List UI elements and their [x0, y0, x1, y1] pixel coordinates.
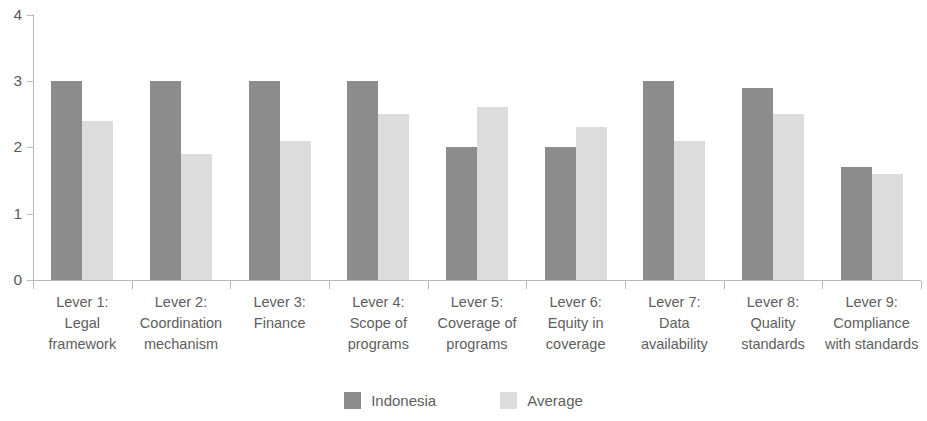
x-axis-label-line: coverage	[519, 334, 632, 355]
legend-item[interactable]: Average	[500, 392, 583, 409]
bar-average	[280, 141, 311, 280]
x-axis-category-label: Lever 2:Coordinationmechanism	[125, 292, 238, 355]
x-axis-category-separator	[428, 281, 429, 289]
bar-indonesia	[249, 81, 280, 280]
x-axis-label-line: Lever 9:	[815, 292, 927, 313]
x-axis-line	[33, 280, 921, 281]
x-axis-label-line: availability	[618, 334, 731, 355]
x-axis-label-line: Quality	[717, 313, 830, 334]
x-axis-category-separator	[921, 281, 922, 289]
y-axis-tick-label: 2	[0, 140, 22, 156]
x-axis-category-label: Lever 1:Legalframework	[26, 292, 139, 355]
x-axis-category-label: Lever 7:Dataavailability	[618, 292, 731, 355]
x-axis-category-separator	[822, 281, 823, 289]
bar-indonesia	[841, 167, 872, 280]
x-axis-label-line: Lever 4:	[322, 292, 435, 313]
x-axis-label-line: Coverage of	[421, 313, 534, 334]
bar-indonesia	[347, 81, 378, 280]
x-axis-category-separator	[329, 281, 330, 289]
x-axis-label-line: with standards	[815, 334, 927, 355]
y-axis-tick-label: 1	[0, 206, 22, 222]
bar-average	[872, 174, 903, 280]
x-axis-label-line: Finance	[223, 313, 336, 334]
x-axis-label-line: programs	[421, 334, 534, 355]
legend-swatch-icon	[500, 392, 517, 409]
x-axis-category-separator	[33, 281, 34, 289]
x-axis-label-line: Coordination	[125, 313, 238, 334]
y-axis-tick-label: 4	[0, 7, 22, 23]
x-axis-label-line: Lever 8:	[717, 292, 830, 313]
bar-indonesia	[51, 81, 82, 280]
bar-average	[181, 154, 212, 280]
x-axis-label-line: Lever 3:	[223, 292, 336, 313]
x-axis-label-line: mechanism	[125, 334, 238, 355]
x-axis-category-separator	[724, 281, 725, 289]
bar-indonesia	[643, 81, 674, 280]
x-axis-category-label: Lever 8:Qualitystandards	[717, 292, 830, 355]
x-axis-labels: Lever 1:LegalframeworkLever 2:Coordinati…	[33, 292, 927, 372]
x-axis-label-line: Scope of	[322, 313, 435, 334]
bar-average	[378, 114, 409, 280]
x-axis-label-line: Lever 2:	[125, 292, 238, 313]
bars-container	[33, 0, 921, 280]
x-axis-label-line: framework	[26, 334, 139, 355]
bar-average	[773, 114, 804, 280]
x-axis-category-label: Lever 3:Finance	[223, 292, 336, 334]
legend-item[interactable]: Indonesia	[344, 392, 436, 409]
bar-average	[674, 141, 705, 280]
grouped-bar-chart: 01234 Lever 1:LegalframeworkLever 2:Coor…	[0, 0, 927, 421]
bar-average	[477, 107, 508, 280]
x-axis-label-line: Equity in	[519, 313, 632, 334]
bar-indonesia	[545, 147, 576, 280]
x-axis-label-line: Lever 6:	[519, 292, 632, 313]
y-axis-tick-label: 3	[0, 73, 22, 89]
x-axis-label-line: Lever 1:	[26, 292, 139, 313]
x-axis-label-line: Data	[618, 313, 731, 334]
x-axis-label-line: Compliance	[815, 313, 927, 334]
bar-average	[82, 121, 113, 280]
x-axis-label-line: Lever 5:	[421, 292, 534, 313]
legend-label: Indonesia	[371, 393, 436, 408]
y-axis-tick-label: 0	[0, 272, 22, 288]
x-axis-category-label: Lever 6:Equity incoverage	[519, 292, 632, 355]
x-axis-category-label: Lever 9:Compliancewith standards	[815, 292, 927, 355]
bar-indonesia	[150, 81, 181, 280]
bar-average	[576, 127, 607, 280]
legend-label: Average	[527, 393, 583, 408]
x-axis-label-line: programs	[322, 334, 435, 355]
x-axis-category-separator	[526, 281, 527, 289]
x-axis-category-separator	[230, 281, 231, 289]
chart-legend: IndonesiaAverage	[0, 392, 927, 409]
x-axis-category-separator	[132, 281, 133, 289]
x-axis-label-line: standards	[717, 334, 830, 355]
x-axis-label-line: Legal	[26, 313, 139, 334]
x-axis-label-line: Lever 7:	[618, 292, 731, 313]
x-axis-category-label: Lever 4:Scope ofprograms	[322, 292, 435, 355]
x-axis-category-separator	[625, 281, 626, 289]
bar-indonesia	[742, 88, 773, 280]
bar-indonesia	[446, 147, 477, 280]
legend-swatch-icon	[344, 392, 361, 409]
x-axis-category-label: Lever 5:Coverage ofprograms	[421, 292, 534, 355]
